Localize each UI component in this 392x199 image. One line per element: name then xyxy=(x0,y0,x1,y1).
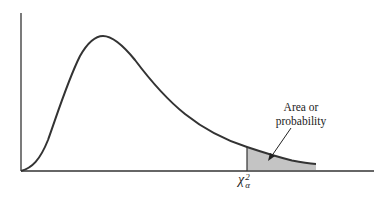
annotation-line-1: Area or xyxy=(262,100,340,114)
critical-value-label: χ2α xyxy=(238,173,250,189)
chi-scripts: 2α xyxy=(245,173,250,189)
chi-symbol: χ xyxy=(238,172,244,187)
chi-subscript: α xyxy=(245,181,250,189)
area-probability-annotation: Area or probability xyxy=(262,100,340,128)
annotation-arrow-shaft xyxy=(271,128,291,157)
annotation-line-2: probability xyxy=(262,114,340,128)
